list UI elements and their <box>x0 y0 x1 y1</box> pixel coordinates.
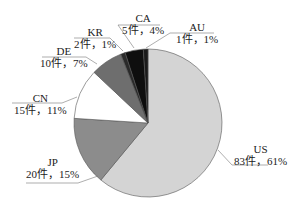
label-cn: CN 15件，11% <box>14 92 67 116</box>
label-ca: CA 5件，4% <box>122 12 164 36</box>
label-au: AU 1件，1% <box>176 21 218 45</box>
label-jp-value: 20件，15% <box>26 168 79 180</box>
label-au-name: AU <box>176 21 218 33</box>
label-cn-value: 15件，11% <box>14 104 67 116</box>
pie-slices <box>74 49 222 197</box>
label-us: US 83件，61% <box>234 143 287 167</box>
label-kr: KR 2件，1% <box>74 26 116 50</box>
label-ca-value: 5件，4% <box>122 24 164 36</box>
label-us-name: US <box>234 143 287 155</box>
label-ca-name: CA <box>122 12 164 24</box>
label-kr-value: 2件，1% <box>74 38 116 50</box>
label-jp-name: JP <box>26 156 79 168</box>
label-us-value: 83件，61% <box>234 155 287 167</box>
label-de-value: 10件，7% <box>40 57 88 69</box>
label-kr-name: KR <box>74 26 116 38</box>
label-au-value: 1件，1% <box>176 33 218 45</box>
label-cn-name: CN <box>14 92 67 104</box>
label-jp: JP 20件，15% <box>26 156 79 180</box>
